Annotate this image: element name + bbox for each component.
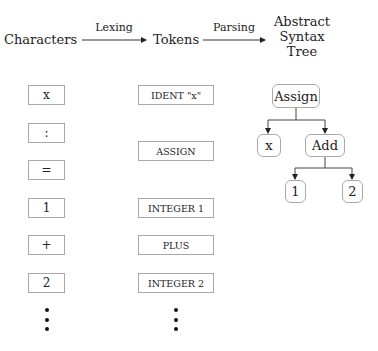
token-box: PLUS [138, 235, 214, 255]
stage-ast-line1: Abstract [272, 14, 332, 29]
char-box: : [28, 123, 65, 143]
stage-characters: Characters [4, 32, 77, 47]
ast-node-x: x [257, 134, 281, 157]
ast-node-assign: Assign [272, 84, 320, 108]
char-box: 1 [28, 198, 65, 218]
char-box: x [28, 85, 65, 105]
stage-ast-line3: Tree [272, 44, 332, 59]
token-box: INTEGER 2 [138, 273, 214, 293]
edge-label-lexing: Lexing [88, 21, 140, 34]
ast-node-1: 1 [285, 180, 306, 203]
stage-tokens: Tokens [153, 32, 199, 47]
stage-ast-line2: Syntax [272, 29, 332, 44]
token-box: IDENT "x" [138, 85, 214, 105]
char-box: + [28, 235, 65, 255]
char-box: 2 [28, 273, 65, 293]
token-box: INTEGER 1 [138, 198, 214, 218]
ast-node-add: Add [305, 134, 345, 157]
ast-node-2: 2 [342, 180, 363, 203]
stage-ast: Abstract Syntax Tree [272, 14, 332, 59]
char-box: = [28, 160, 65, 180]
edge-label-parsing: Parsing [208, 21, 260, 34]
token-box: ASSIGN [138, 141, 214, 161]
